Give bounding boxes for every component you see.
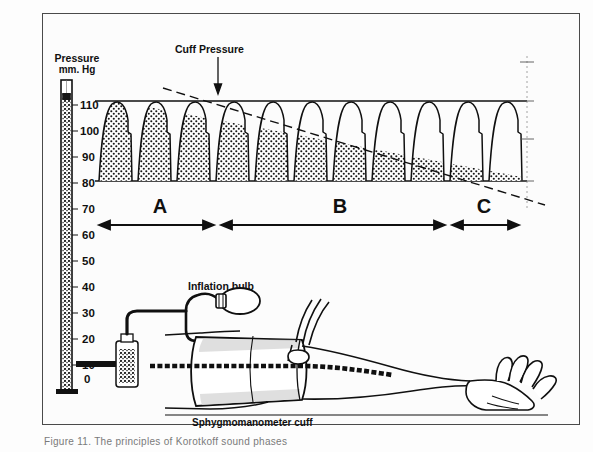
- phase-label-b: B: [333, 195, 347, 217]
- right-edge-reference: [520, 56, 534, 208]
- mercury-reservoir: [116, 334, 138, 387]
- hand: [466, 356, 556, 410]
- scale-tick-40: 40: [82, 281, 95, 293]
- scale-tick-20: 20: [82, 333, 95, 345]
- manometer-base: [56, 389, 78, 394]
- tubing-bulb-loop: [186, 294, 219, 311]
- scale-tick-80: 80: [82, 177, 95, 189]
- phase-arrow-a: [99, 221, 214, 230]
- tubing-to-bulb: [127, 311, 186, 334]
- phase-arrow-c: [452, 221, 519, 230]
- sphygmomanometer-cuff: [191, 336, 306, 406]
- scale-tick-70: 70: [82, 203, 95, 215]
- scale-tick-labels: 110 100 90 80 70 60 50 40 30 20 10 0: [80, 99, 99, 385]
- manometer-connector: [76, 361, 116, 367]
- scale-tick-50: 50: [82, 255, 95, 267]
- axis-label-line1: Pressure: [55, 52, 100, 64]
- cuff-caption-label: Sphygmomanometer cuff: [192, 417, 313, 428]
- phase-arrow-b: [221, 221, 445, 230]
- cuff-pressure-arrow: [214, 57, 221, 94]
- bulb-valve: [216, 294, 226, 308]
- figure-root: Pressure mm. Hg 110 100 90: [0, 0, 593, 452]
- cuff-pressure-label: Cuff Pressure: [175, 43, 244, 55]
- scale-tick-30: 30: [82, 307, 95, 319]
- phase-label-c: C: [477, 195, 491, 217]
- scale-tick-60: 60: [82, 229, 95, 241]
- scale-tick-0: 0: [84, 373, 90, 385]
- scale-tick-100: 100: [80, 125, 99, 137]
- mercury-meniscus: [62, 93, 71, 100]
- figure-caption: Figure 11. The principles of Korotkoff s…: [44, 436, 584, 450]
- scale-tick-90: 90: [82, 151, 95, 163]
- figure-drawing: Pressure mm. Hg 110 100 90: [0, 0, 593, 452]
- axis-label-line2: mm. Hg: [59, 64, 96, 75]
- manometer-ticks: [72, 105, 78, 365]
- mercury-column: [62, 93, 71, 390]
- antecubital-vessels: [288, 299, 329, 364]
- phase-label-a: A: [153, 195, 167, 217]
- tubing-cuff-branch: [186, 311, 196, 341]
